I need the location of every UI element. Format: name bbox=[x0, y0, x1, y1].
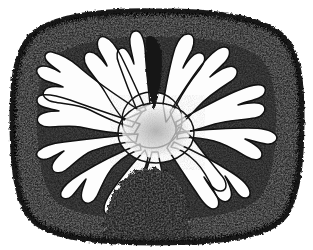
central-medullary-hub bbox=[110, 95, 205, 170]
cerebellum-section-figure bbox=[0, 0, 313, 250]
specimen-group bbox=[0, 0, 313, 250]
illustration-canvas: cerebellum-sagittal-section bbox=[0, 0, 313, 250]
